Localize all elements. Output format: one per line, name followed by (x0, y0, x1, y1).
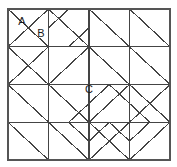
cell-1-3-diagonal-tl-br (49, 122, 90, 160)
label-a: A (18, 15, 26, 27)
cell-1-2-diagonal-tl-br (49, 85, 90, 123)
label-b: B (37, 27, 44, 39)
cell-0-3-diagonal-tl-br (8, 122, 49, 160)
cell-0-2-diagonal-tl-br (8, 85, 49, 123)
cell-1-0-diagonal-tl-br (49, 9, 90, 47)
diamond-c-edge-top-left (49, 47, 90, 85)
cell-3-0-diagonal-tl-br (130, 9, 171, 47)
label-c: C (85, 83, 93, 95)
geometric-tiling-figure: ABC (0, 0, 177, 167)
diamond-c-edge-top-right (89, 47, 130, 85)
pinwheel-br-inner-right-lower (130, 122, 150, 141)
cell-3-1-diagonal-tl-br (130, 47, 171, 85)
figure-canvas: ABC (0, 0, 177, 167)
cell-3-3-diagonal-bl-tr (130, 122, 171, 160)
cell-2-0-diagonal-tl-br (89, 9, 130, 47)
pinwheel-br-inner-left-lower (69, 122, 89, 141)
cell-2-2-diagonal-bl-tr (89, 85, 130, 123)
